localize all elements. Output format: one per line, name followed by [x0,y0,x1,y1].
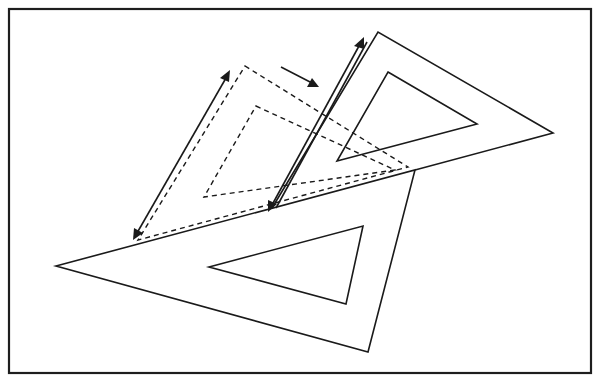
fixed-set-square [56,170,415,352]
slide-distance-arrow [133,70,230,240]
fixed-set-square-outer [56,170,415,352]
diagram-frame [9,9,591,373]
parallel-edge-arrow [268,37,367,212]
set-square-diagram [0,0,599,379]
direction-of-motion-arrow [281,67,319,87]
arrow-head-right-icon [307,78,319,87]
fixed-set-square-inner [209,226,363,304]
moved-set-square-inner [337,72,477,161]
arrow-head-up-icon [220,70,230,82]
arrow-head-up-icon [354,37,364,49]
